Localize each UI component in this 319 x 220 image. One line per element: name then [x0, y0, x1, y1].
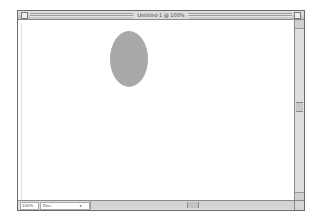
vertical-scrollbar[interactable]	[294, 20, 304, 201]
status-bar: 100% Doc: ▸	[18, 200, 304, 210]
title-bar[interactable]: Untitled-1 @ 100%	[18, 11, 304, 20]
scroll-up-arrow-icon[interactable]	[295, 20, 304, 29]
resize-grow-box-icon[interactable]	[294, 201, 304, 210]
close-box-icon[interactable]	[21, 12, 28, 19]
status-popup-arrow-icon[interactable]: ▸	[80, 203, 82, 208]
zoom-box-icon[interactable]	[294, 12, 301, 19]
horizontal-scrollbar[interactable]	[90, 201, 294, 209]
document-info: Doc:	[40, 202, 90, 210]
vertical-scroll-thumb[interactable]	[296, 102, 303, 112]
document-window: Untitled-1 @ 100% 100% Doc: ▸	[17, 10, 305, 211]
gray-ellipse-shape[interactable]	[110, 31, 148, 87]
image-canvas[interactable]	[21, 23, 292, 200]
horizontal-scroll-thumb[interactable]	[187, 202, 199, 208]
window-title: Untitled-1 @ 100%	[133, 11, 188, 19]
zoom-level-field[interactable]: 100%	[20, 202, 39, 210]
